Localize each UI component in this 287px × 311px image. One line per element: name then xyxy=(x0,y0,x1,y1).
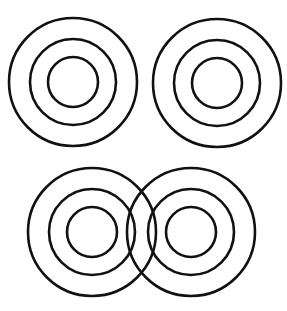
background xyxy=(0,0,287,311)
concentric-circles-diagram xyxy=(0,0,287,311)
diagram-svg xyxy=(0,0,287,311)
